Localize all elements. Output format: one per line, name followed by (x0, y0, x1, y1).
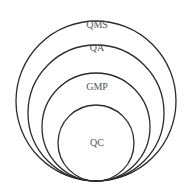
label-qc: QC (90, 137, 104, 148)
label-gmp: GMP (86, 81, 108, 92)
circle-qa (28, 45, 164, 181)
label-qms: QMS (86, 19, 108, 30)
nested-circle-diagram: QMS QA GMP QC (0, 0, 184, 190)
label-qa: QA (90, 42, 105, 53)
